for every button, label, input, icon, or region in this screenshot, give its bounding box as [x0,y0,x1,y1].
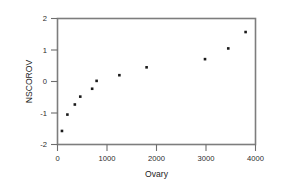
x-axis-ticks [58,145,256,152]
x-tick-label: 0 [55,154,59,163]
x-tick-label: 1000 [99,154,116,163]
x-tick-label: 4000 [247,154,264,163]
y-tick-label: -1 [40,109,47,118]
y-axis-ticks [51,19,58,145]
scatter-plot-figure: 2 1 0 -1 -2 0 1000 2000 3000 4000 Ovary … [0,0,282,186]
y-tick-label: 0 [43,77,47,86]
x-tick-label: 2000 [148,154,165,163]
y-tick-label: -2 [40,140,47,149]
plot-canvas: 2 1 0 -1 -2 0 1000 2000 3000 4000 Ovary … [0,0,282,186]
data-point [244,31,247,34]
plot-frame [58,19,256,145]
x-tick-label: 3000 [198,154,215,163]
x-axis-title: Ovary [145,169,169,179]
x-axis-tick-labels: 0 1000 2000 3000 4000 [55,154,264,163]
data-point [61,130,64,133]
data-point [95,80,98,83]
data-point [227,47,230,50]
data-point [145,66,148,69]
y-axis-title: NSCOROV [24,60,34,104]
y-tick-label: 2 [43,14,47,23]
data-point [66,113,69,116]
data-point [74,103,77,106]
data-point [204,58,207,61]
data-point [79,95,82,98]
data-point [118,74,121,77]
y-tick-label: 1 [43,46,47,55]
data-point-group [61,31,247,133]
data-point [91,87,94,90]
y-axis-tick-labels: 2 1 0 -1 -2 [40,14,47,149]
